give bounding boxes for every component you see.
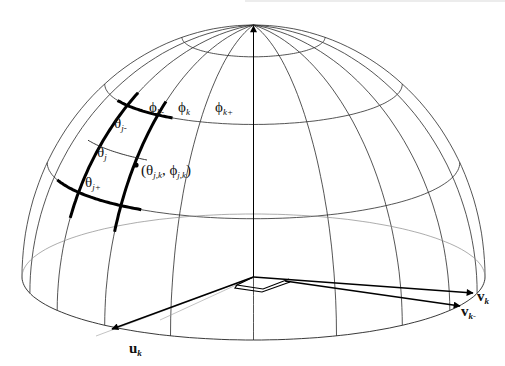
label-phi-k: ϕk <box>178 100 190 117</box>
label-phi-k-plus: ϕk+ <box>215 100 233 117</box>
u-k-vector <box>112 277 254 329</box>
meridian-line <box>254 25 486 277</box>
label-u-k: uk <box>129 341 142 358</box>
meridian-line <box>254 25 478 293</box>
meridian-line <box>254 25 450 310</box>
label-v-k: vk <box>477 289 489 306</box>
meridian-line <box>254 25 337 336</box>
v-k-minus-vector <box>285 281 460 306</box>
cell-center-point <box>133 162 138 167</box>
label-cell-center: (θj,k, ϕj,k) <box>141 163 191 180</box>
label-phi-k-minus: ϕk- <box>149 100 164 117</box>
meridian-line <box>22 25 254 277</box>
label-theta-j: θj <box>97 145 107 162</box>
hemisphere-diagram <box>0 0 505 366</box>
meridian-line <box>254 25 403 325</box>
label-theta-j-minus: θj- <box>114 116 127 133</box>
label-v-k-minus: vk- <box>461 304 476 321</box>
label-theta-j-plus: θj+ <box>85 175 101 192</box>
